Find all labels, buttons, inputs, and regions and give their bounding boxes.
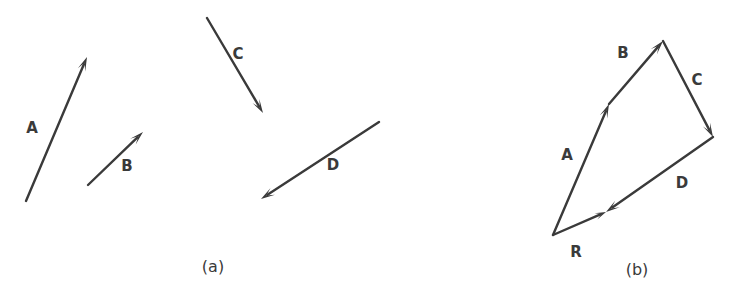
vector-d-label: D — [676, 174, 688, 192]
vector-b-label: B — [617, 44, 628, 62]
vector-a-label: A — [26, 119, 38, 137]
vector-d-label: D — [327, 156, 339, 174]
vector-a-label: A — [561, 146, 573, 164]
vector-c-label: C — [232, 45, 243, 63]
vector-figure: A B C D (a) — [0, 0, 733, 295]
vector-c-label: C — [691, 71, 702, 89]
vector-b-label: B — [121, 157, 132, 175]
resultant-r-label: R — [570, 243, 582, 261]
panel-a-caption: (a) — [202, 257, 224, 276]
figure-canvas: A B C D (a) — [0, 0, 733, 295]
panel-b-caption: (b) — [626, 260, 649, 279]
